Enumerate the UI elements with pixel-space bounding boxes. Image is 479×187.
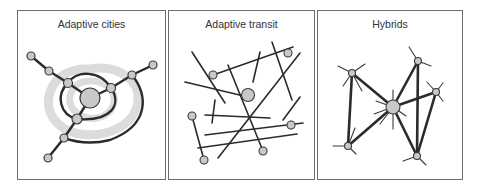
node-icon	[414, 153, 421, 160]
node-icon	[345, 143, 352, 150]
center-hub-icon	[386, 100, 400, 114]
node-icon	[349, 70, 356, 77]
hybrid-nodes	[345, 58, 440, 160]
node-icon	[415, 58, 422, 65]
hybrids-diagram	[0, 0, 479, 187]
node-icon	[433, 89, 440, 96]
